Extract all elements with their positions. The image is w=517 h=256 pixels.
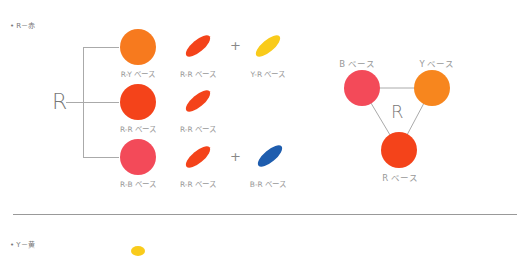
y-base-node: [414, 70, 450, 106]
yellow-circle-partial: [131, 246, 145, 256]
b-base-node: [344, 70, 380, 106]
section-divider: [13, 214, 517, 215]
section-title-yellow: • Y－黄: [10, 239, 35, 249]
triangle-center-label: R: [391, 101, 404, 122]
r-base-node: [381, 132, 417, 168]
y-base-label: Y ベース: [402, 57, 472, 69]
r-base-label: R ベース: [365, 171, 435, 183]
b-base-label: B ベース: [322, 57, 392, 69]
